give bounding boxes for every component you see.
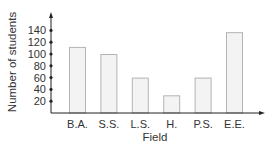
y-tick-label: 60 [34,72,46,84]
y-tick-mark [49,100,52,103]
y-tick-mark [49,88,52,91]
x-category-label: L.S. [131,118,151,130]
x-axis-arrow-icon [259,111,265,115]
bar-ee [227,33,243,113]
x-labels-group: B.A.S.S.L.S.H.P.S.E.E. [67,118,245,130]
y-tick-mark [49,64,52,67]
bar-h [164,96,180,113]
y-axis-title: Number of students [6,12,18,113]
x-category-label: H. [166,118,177,130]
x-axis-title: Field [143,131,168,143]
y-tick-mark [49,41,52,44]
y-ticks-group: 20406080100120140 [28,24,53,107]
x-category-label: E.E. [224,118,245,130]
y-tick-label: 140 [28,24,46,36]
y-tick-label: 80 [34,60,46,72]
y-tick-label: 120 [28,36,46,48]
bar-ba [70,47,86,113]
y-tick-mark [49,52,52,55]
x-category-label: B.A. [67,118,88,130]
y-tick-label: 40 [34,83,46,95]
x-category-label: S.S. [99,118,120,130]
y-tick-label: 20 [34,95,46,107]
x-category-label: P.S. [193,118,212,130]
bar-ls [132,78,148,113]
bar-ss [101,55,117,114]
y-tick-label: 100 [28,48,46,60]
bar-ps [195,78,211,113]
bars-group [70,33,243,113]
y-axis-arrow-icon [49,12,53,18]
y-tick-mark [49,76,52,79]
y-tick-mark [49,29,52,32]
bar-chart: 20406080100120140 B.A.S.S.L.S.H.P.S.E.E.… [0,0,271,149]
